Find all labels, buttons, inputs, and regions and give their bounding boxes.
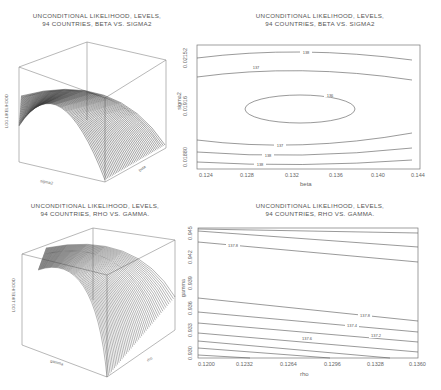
x-axis-label: rho <box>300 371 309 377</box>
x-tick: 0.1200 <box>198 361 215 367</box>
y-tick: 0.942 <box>187 250 193 264</box>
y-tick: 0.930 <box>187 346 193 360</box>
svg-text:137.2: 137.2 <box>371 333 382 338</box>
svg-text:137.4: 137.4 <box>347 323 358 328</box>
x-tick: 0.1296 <box>324 361 341 367</box>
y-tick: 0.939 <box>187 276 193 290</box>
x-tick: 0.1360 <box>409 361 426 367</box>
y-axis-label: gamma <box>180 279 186 297</box>
y-tick: 0.933 <box>187 323 193 337</box>
x-tick: 0.1264 <box>280 361 297 367</box>
y-tick: 0.945 <box>187 226 193 240</box>
x-tick: 0.1232 <box>236 361 253 367</box>
svg-text:137.8: 137.8 <box>228 243 239 248</box>
bottom-right-contour-plot: 137.8 137.8 137.4 137.2 137.6 <box>0 0 441 390</box>
y-tick: 0.936 <box>187 301 193 315</box>
svg-text:137.8: 137.8 <box>360 313 371 318</box>
svg-text:137.6: 137.6 <box>302 336 313 341</box>
x-tick: 0.1328 <box>367 361 384 367</box>
